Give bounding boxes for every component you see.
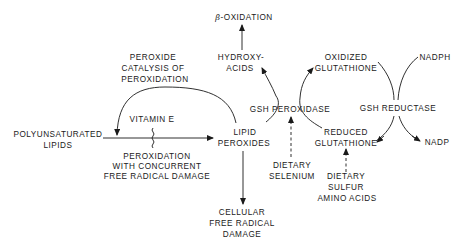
oxidized-glutathione-label-line1: OXIDIZED [325,53,368,62]
arc-peroxide-catalysis [117,87,236,135]
curve-nadph-to-nadp [398,57,418,140]
gsh-reductase-label: GSH REDUCTASE [360,104,436,113]
hydroxy-acids-label-line1: HYDROXY- [218,53,264,62]
dietary-selenium-label-line2: SELENIUM [269,172,315,181]
lipid-peroxides-label-line1: LIPID [234,128,257,137]
cellular-damage-label-line3: DAMAGE [223,230,262,239]
reduced-glutathione-label-line2: GLUTATHIONE [315,139,378,148]
hydroxy-acids-label-line2: ACIDS [226,64,254,73]
nadph-label: NADPH [419,53,450,62]
peroxidation-label-line3: FREE RADICAL DAMAGE [104,172,211,181]
reduced-glutathione-label-line1: REDUCED [324,128,368,137]
peroxide-catalysis-label-line2: CATALYSIS OF [122,64,185,73]
curve-reduced-to-oxidized-glutathione [300,68,322,128]
arrowhead-to-nadp [412,136,420,141]
peroxidation-label-line2: WITH CONCURRENT [113,162,202,171]
nadp-label: NADP [425,138,450,147]
lipid-peroxidation-pathway-diagram: β-OXIDATION HYDROXY- ACIDS PEROXIDE CATA… [0,0,465,244]
curve-oxidized-to-reduced-glutathione [376,62,394,141]
gsh-peroxidase-label: GSH PEROXIDASE [250,105,330,114]
polyunsaturated-lipids-label-line2: LIPIDS [44,141,73,150]
peroxide-catalysis-label-line3: PEROXIDATION [121,75,188,84]
dietary-selenium-label-line1: DIETARY [273,161,311,170]
dietary-sulfur-label-line3: AMINO ACIDS [317,194,376,203]
peroxide-catalysis-label-line1: PEROXIDE [130,53,176,62]
dietary-sulfur-label-line1: DIETARY [327,172,365,181]
polyunsaturated-lipids-label-line1: POLYUNSATURATED [14,130,103,139]
oxidized-glutathione-label-line2: GLUTATHIONE [315,64,378,73]
lipid-peroxides-label-line2: PEROXIDES [218,139,270,148]
vitamin-e-label: VITAMIN E [130,115,175,124]
cellular-damage-label-line1: CELLULAR [219,208,265,217]
cellular-damage-label-line2: FREE RADICAL [209,219,275,228]
peroxidation-label-line1: PEROXIDATION [123,152,190,161]
dietary-sulfur-label-line2: SULFUR [328,183,364,192]
beta-oxidation-label: β-OXIDATION [214,12,272,22]
